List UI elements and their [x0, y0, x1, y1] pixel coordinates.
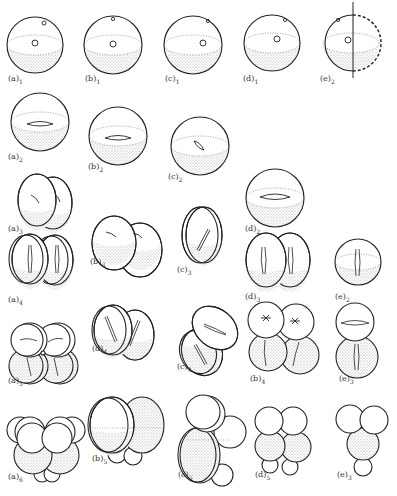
- embryo-d1: [244, 15, 300, 71]
- stage-label-c1: (c)1: [165, 74, 180, 85]
- stage-label-b3: (b)3: [90, 257, 105, 268]
- stage-label-d2: (d)2: [245, 224, 260, 235]
- stage-label-a2: (a)2: [8, 152, 23, 163]
- embryo-c1: [164, 16, 222, 74]
- embryo-d5: [255, 407, 311, 475]
- embryo-b3: [92, 216, 162, 277]
- cleavage-figure: [0, 0, 397, 496]
- embryo-c3: [182, 207, 222, 266]
- stage-label-a1: (a)1: [8, 74, 23, 85]
- stage-label-a6: (a)6: [8, 472, 23, 483]
- stage-label-b1: (b)1: [85, 74, 100, 85]
- embryo-b4: [248, 302, 319, 374]
- stage-label-d3: (d)3: [245, 292, 260, 303]
- embryo-a1: [7, 17, 63, 73]
- stage-label-a3: (a)3: [8, 224, 23, 235]
- embryo-c2: [171, 117, 229, 175]
- stage-label-e2: (e)2: [335, 292, 350, 303]
- stage-label-b4: (b)4: [250, 374, 265, 385]
- embryo-e2: [335, 239, 381, 285]
- embryo-a3: [18, 174, 72, 233]
- embryo-a5: [9, 323, 78, 384]
- stage-label-b5: (b)5: [92, 454, 107, 465]
- stage-label-e3b: (e)3: [337, 470, 352, 481]
- embryo-e3b: [336, 405, 388, 476]
- embryo-b1: [84, 16, 142, 74]
- embryo-d3: [246, 233, 310, 292]
- stage-label-c4: (c)4: [177, 362, 192, 373]
- embryo-a2: [11, 93, 69, 151]
- embryo-d2: [246, 169, 304, 227]
- embryo-b2: [89, 107, 147, 165]
- stage-label-a4: (a)4: [8, 295, 23, 306]
- embryo-a4: [9, 234, 73, 290]
- stage-label-d1: (d)1: [243, 74, 258, 85]
- stage-label-e1: (e)2: [320, 74, 335, 85]
- embryo-e1: [323, 2, 381, 78]
- stage-label-a5: (a)5: [8, 376, 23, 387]
- embryo-e3a: [336, 303, 378, 378]
- stage-label-c3: (c)3: [177, 265, 192, 276]
- stage-label-d5: (d)5: [255, 470, 270, 481]
- stage-label-b2: (b)2: [88, 162, 103, 173]
- stage-label-d4: (d)4: [92, 344, 107, 355]
- stage-label-e3a: (e)3: [339, 374, 354, 385]
- stage-label-c2: (c)2: [168, 172, 183, 183]
- stage-label-c5: (c)5: [178, 470, 193, 481]
